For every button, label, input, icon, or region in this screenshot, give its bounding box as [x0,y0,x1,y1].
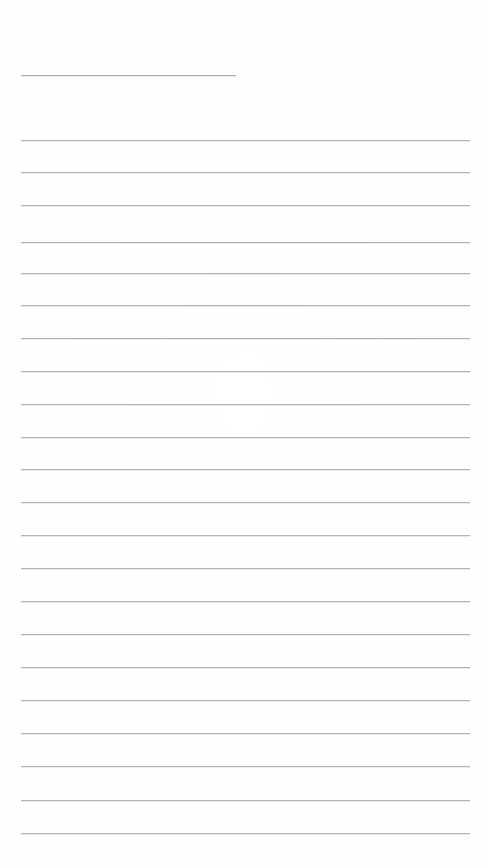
writing-line-8[interactable] [21,340,470,372]
writing-line-17[interactable] [21,636,470,668]
writing-line-4[interactable] [21,211,470,243]
writing-line-13[interactable] [21,504,470,536]
writing-line-2[interactable] [21,141,470,173]
writing-line-22[interactable] [21,802,470,834]
writing-line-5[interactable] [21,242,470,274]
writing-line-18[interactable] [21,669,470,701]
writing-line-9[interactable] [21,373,470,405]
writing-line-6[interactable] [21,274,470,306]
writing-line-10[interactable] [21,406,470,438]
writing-line-20[interactable] [21,735,470,767]
lined-paper-page [0,0,488,866]
writing-line-14[interactable] [21,537,470,569]
writing-area[interactable] [0,0,488,866]
writing-line-19[interactable] [21,702,470,734]
writing-line-3[interactable] [21,174,470,206]
writing-line-16[interactable] [21,603,470,635]
writing-line-1[interactable] [21,109,470,141]
writing-line-11[interactable] [21,438,470,470]
writing-line-12[interactable] [21,471,470,503]
writing-line-7[interactable] [21,307,470,339]
writing-line-15[interactable] [21,570,470,602]
writing-line-21[interactable] [21,769,470,801]
